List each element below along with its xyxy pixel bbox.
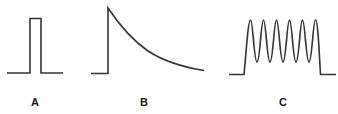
panel-b: B bbox=[91, 8, 204, 108]
panel-b-label: B bbox=[140, 96, 148, 108]
waveform-diagram: A B C bbox=[0, 0, 338, 114]
panel-a: A bbox=[7, 19, 63, 109]
oscillation-burst-waveform bbox=[229, 20, 336, 75]
panel-c-label: C bbox=[279, 96, 287, 108]
exponential-decay-waveform bbox=[91, 8, 204, 74]
panel-c: C bbox=[229, 20, 336, 108]
panel-a-label: A bbox=[31, 96, 39, 108]
rectangular-pulse-waveform bbox=[7, 19, 63, 74]
